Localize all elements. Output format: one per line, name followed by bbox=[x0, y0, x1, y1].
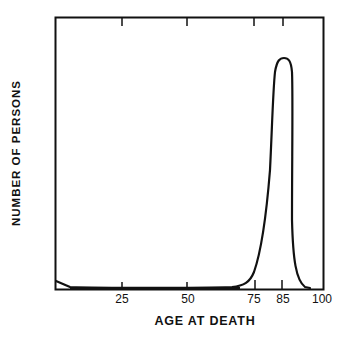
x-tick-label-25: 25 bbox=[115, 292, 128, 306]
deaths-curve bbox=[56, 58, 310, 288]
x-tick-label-75: 75 bbox=[247, 292, 260, 306]
x-tick-label-85: 85 bbox=[276, 292, 289, 306]
x-tick-label-50: 50 bbox=[181, 292, 194, 306]
y-axis-label: NUMBER OF PERSONS bbox=[8, 53, 24, 253]
chart-plot bbox=[0, 0, 351, 347]
x-tick-label-100: 100 bbox=[312, 292, 332, 306]
x-axis-label: AGE AT DEATH bbox=[130, 314, 280, 328]
